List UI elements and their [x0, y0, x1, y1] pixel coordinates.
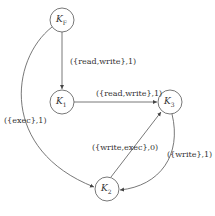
edge-label-k3-k2: ({write},1): [167, 151, 212, 159]
node-label-k2: K2: [101, 184, 112, 195]
edge-label-k2-k3: ({write,exec},0): [92, 144, 158, 152]
edge-label-kf-k1: ({read,write},1): [70, 58, 136, 66]
graph-diagram: KF K1 K3 K2 ({read,write},1) ({read,writ…: [0, 0, 215, 216]
node-label-k3: K3: [164, 97, 175, 108]
edge-label-kf-k2: ({exec},1): [4, 117, 47, 125]
edge-label-k1-k3: ({read,write},1): [96, 90, 162, 98]
node-label-k1: K1: [56, 97, 67, 108]
node-label-kf: KF: [56, 15, 67, 26]
